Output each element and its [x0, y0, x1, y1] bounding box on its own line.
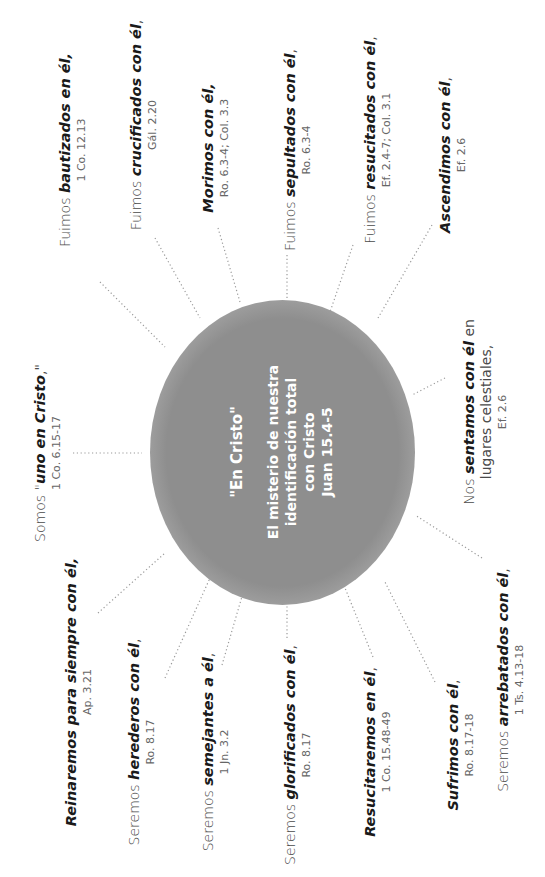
scripture-reference: Gál. 2.20 [145, 20, 160, 231]
scripture-reference: 1 Co. 12.13 [74, 53, 89, 247]
label-bautizados: Fuimos bautizados en él, 1 Co. 12.13 [56, 53, 89, 247]
center-subtitle-line: El misterio de nuestra [264, 365, 282, 540]
label-uno-en-cristo: Somos "uno en Cristo," 1 Co. 6.15-17 [31, 364, 64, 542]
connector-crucificados [155, 238, 200, 318]
connector-bautizados [100, 282, 165, 347]
connector-arrebatados [415, 515, 482, 558]
scripture-reference: Ef. 2.6 [495, 319, 510, 505]
connector-morimos [218, 228, 240, 302]
label-reinaremos: Reinaremos para siempre con él, Ap. 3.21 [62, 558, 95, 826]
scripture-reference: Ro. 6.3-4 [299, 49, 314, 251]
scripture-reference: Ro. 8.17-18 [462, 679, 477, 810]
center-reference: Juan 15.4-5 [318, 365, 336, 540]
scripture-reference: Ro. 8.17 [143, 639, 158, 846]
label-arrebatados: Seremos arrebatados con él, 1 Ts. 4.13-1… [494, 568, 527, 792]
connector-reinaremos [98, 553, 165, 613]
center-text: "En Cristo" El misterio de nuestra ident… [228, 365, 336, 540]
label-crucificados: Fuimos crucificados con él, Gál. 2.20 [127, 20, 160, 231]
scripture-reference: 1 Co. 15.48-49 [379, 667, 394, 837]
label-sepultados: Fuimos sepultados con él, Ro. 6.3-4 [281, 49, 314, 251]
scripture-reference: Ro. 6.3-4; Col. 3.3 [217, 83, 232, 213]
center-title: "En Cristo" [228, 365, 246, 540]
label-resucitaremos: Resucitaremos en él, 1 Co. 15.48-49 [361, 667, 394, 837]
scripture-reference: Ap. 3.21 [80, 558, 95, 826]
label-ascendimos: Ascendimos con él, Ef. 2.6 [436, 77, 469, 233]
connector-sentamos [412, 378, 445, 395]
scripture-reference: Ro. 8.17 [299, 645, 314, 865]
connector-resucitados [330, 245, 353, 312]
scripture-reference: 1 Ts. 4.13-18 [512, 568, 527, 792]
scripture-reference: 1 Co. 6.15-17 [49, 364, 64, 542]
scripture-reference: Ef. 2.6 [454, 77, 469, 233]
label-semejantes: Seremos semejantes a él, 1 Jn. 3.2 [199, 653, 232, 852]
label-morimos: Morimos con él, Ro. 6.3-4; Col. 3.3 [199, 83, 232, 213]
label-glorificados: Seremos glorificados con él, Ro. 8.17 [281, 645, 314, 865]
center-subtitle-line: con Cristo [300, 365, 318, 540]
center-subtitle-line: identificación total [282, 365, 300, 540]
identification-diagram: "En Cristo" El misterio de nuestra ident… [0, 0, 545, 877]
label-herederos: Seremos herederos con él, Ro. 8.17 [125, 639, 158, 846]
label-sentamos: Nos sentamos con él en lugares celestial… [460, 319, 510, 505]
connector-resucitaremos [345, 588, 373, 657]
scripture-reference: Ef. 2.4-7; Col. 3.1 [379, 36, 394, 243]
label-resucitados: Fuimos resucitados con él, Ef. 2.4-7; Co… [361, 36, 394, 243]
scripture-reference: 1 Jn. 3.2 [217, 653, 232, 852]
label-sufrimos: Sufrimos con él, Ro. 8.17-18 [444, 679, 477, 810]
